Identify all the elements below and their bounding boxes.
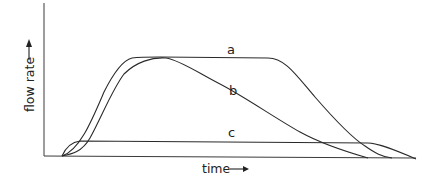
curve-c-label: c [228,125,235,140]
y-axis-label: flow rate [22,57,37,112]
curve-a-label: a [227,42,235,57]
x-axis-label: time [202,161,231,176]
y-axis-arrow-icon [26,39,32,60]
x-axis [44,156,416,158]
curve-b [62,58,368,158]
flow-rate-diagram: a b c time flow rate [0,0,438,195]
x-axis-arrow-icon [230,166,249,172]
curve-b-label: b [229,83,237,98]
